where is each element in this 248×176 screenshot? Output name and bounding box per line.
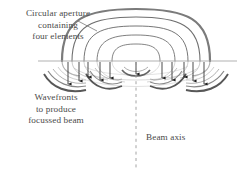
- aperture-label-line-2: containing: [14, 20, 102, 32]
- wavefronts-label-line-1: Wavefronts: [10, 92, 102, 104]
- aperture-label-line-1: Circular aperture: [14, 8, 102, 20]
- wavefronts-label-line-3: focussed beam: [10, 115, 102, 127]
- aperture-label-line-3: four elements: [14, 31, 102, 43]
- aperture-label: Circular aperture containing four elemen…: [14, 8, 102, 43]
- wavefront-diagram: Circular aperture containing four elemen…: [0, 0, 248, 176]
- wavefront-arc: [186, 74, 228, 91]
- dome-arc-2: [97, 35, 175, 61]
- dome-arc-1: [112, 44, 160, 61]
- wavefronts-label-line-2: to produce: [10, 104, 102, 116]
- element-wavefront-4: [186, 67, 228, 91]
- wavefronts-label: Wavefronts to produce focussed beam: [10, 92, 102, 127]
- beam-axis-label: Beam axis: [146, 132, 185, 144]
- wavefront-arc: [44, 74, 86, 91]
- element-wavefront-1: [44, 67, 86, 91]
